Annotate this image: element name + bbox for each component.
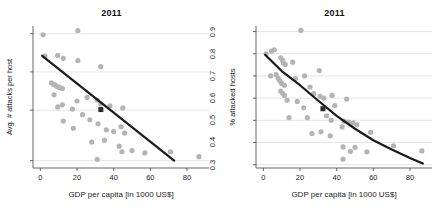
data-point (321, 96, 326, 101)
xtick-label-0: 0 (38, 173, 42, 182)
data-point (122, 130, 127, 135)
data-point (87, 117, 92, 122)
y-axis-label: % attacked hosts (228, 68, 237, 125)
xtick-label-0: 0 (261, 173, 265, 182)
panel-title-left: 2011 (0, 8, 223, 18)
data-point (89, 139, 94, 144)
data-point (272, 47, 277, 52)
data-point (286, 115, 291, 120)
trend-line (42, 56, 174, 161)
data-point (51, 92, 56, 97)
data-point (98, 64, 103, 69)
data-point (80, 112, 85, 117)
highlight-marker (98, 107, 103, 112)
xtick-label-3: 60 (369, 173, 377, 182)
data-point (120, 105, 125, 110)
data-point (111, 129, 116, 134)
data-point (285, 98, 290, 103)
data-point (282, 93, 287, 98)
data-point (419, 148, 424, 153)
panel-title-right: 2011 (223, 8, 446, 18)
data-point (55, 53, 60, 58)
data-point (74, 98, 79, 103)
plot-svg-right (256, 26, 432, 168)
data-point (391, 143, 396, 148)
data-point (70, 106, 75, 111)
data-point (168, 149, 173, 154)
data-point (119, 149, 124, 154)
data-point (75, 28, 80, 33)
ytick-label-1: 0.4 (208, 130, 217, 154)
panel-avg-attacks-per-host: 2011 251020020406080Avg. # attacks per h… (0, 0, 223, 217)
x-axis-label: GDP per capita [in 1000 US$] (33, 190, 209, 199)
figure-two-panel-scatter: 2011 251020020406080Avg. # attacks per h… (0, 0, 446, 217)
data-point (309, 131, 314, 136)
data-point (268, 73, 273, 78)
x-axis-label: GDP per capita [in 1000 US$] (256, 190, 432, 199)
data-point (329, 118, 334, 123)
data-point (61, 56, 66, 61)
xtick-label-4: 80 (183, 173, 191, 182)
data-point (352, 145, 357, 150)
data-point (324, 113, 329, 118)
data-point (354, 122, 359, 127)
xtick-label-3: 60 (146, 173, 154, 182)
data-point (340, 144, 345, 149)
data-point (117, 144, 122, 149)
xtick-label-2: 40 (332, 173, 340, 182)
panel-pct-attacked-hosts: 2011 0.30.40.50.60.70.80.9020406080% att… (223, 0, 446, 217)
highlight-marker (320, 106, 325, 111)
data-point (328, 133, 333, 138)
ytick-label-2: 0.5 (208, 108, 217, 132)
data-point (95, 121, 100, 126)
data-point (340, 157, 345, 162)
xtick-label-2: 40 (109, 173, 117, 182)
ytick-label-5: 0.8 (208, 42, 217, 66)
data-point (118, 124, 123, 129)
data-point (307, 84, 312, 89)
xtick-label-1: 20 (73, 173, 81, 182)
data-point (290, 60, 295, 65)
data-point (301, 105, 306, 110)
ytick-label-3: 0.6 (208, 86, 217, 110)
data-point (104, 127, 109, 132)
data-point (298, 28, 303, 33)
data-point (348, 149, 353, 154)
data-point (329, 93, 334, 98)
data-point (305, 115, 310, 120)
data-point (95, 157, 100, 162)
ytick-label-0: 0.3 (208, 153, 217, 177)
ytick-label-6: 0.9 (208, 20, 217, 44)
data-point (102, 138, 107, 143)
data-point (142, 150, 147, 155)
xtick-label-1: 20 (296, 173, 304, 182)
data-point (317, 68, 322, 73)
data-point (344, 96, 349, 101)
plot-svg-left (33, 26, 209, 168)
data-point (129, 148, 134, 153)
plot-area-left: 251020020406080Avg. # attacks per hostGD… (33, 26, 209, 168)
data-point (196, 154, 201, 159)
data-point (55, 104, 60, 109)
data-point (75, 58, 80, 63)
data-point (282, 83, 287, 88)
data-point (340, 124, 345, 129)
data-point (71, 126, 76, 131)
data-point (332, 103, 337, 108)
data-point (302, 73, 307, 78)
data-point (364, 149, 369, 154)
data-point (60, 86, 65, 91)
data-point (295, 99, 300, 104)
data-point (40, 32, 45, 37)
y-axis-label: Avg. # attacks per host (5, 59, 14, 135)
data-point (368, 130, 373, 135)
data-point (61, 118, 66, 123)
data-point (84, 95, 89, 100)
data-point (60, 102, 65, 107)
xtick-label-4: 80 (406, 173, 414, 182)
ytick-label-4: 0.7 (208, 64, 217, 88)
data-point (318, 129, 323, 134)
data-point (283, 62, 288, 67)
plot-area-right: 0.30.40.50.60.70.80.9020406080% attacked… (256, 26, 432, 168)
